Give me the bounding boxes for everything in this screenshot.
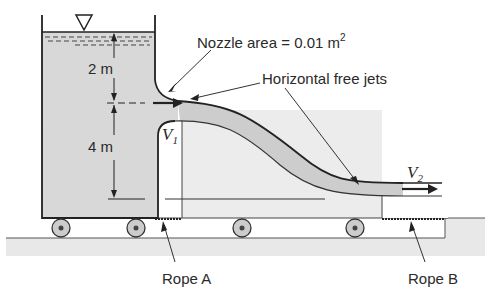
- v2-label: V2: [407, 163, 423, 184]
- wheels: [52, 219, 364, 237]
- ground: [6, 238, 460, 256]
- height-upper-label: 2 m: [88, 60, 113, 77]
- rope-b-label: Rope B: [408, 270, 458, 287]
- height-lower-label: 4 m: [88, 138, 113, 155]
- ground-step: [445, 218, 485, 256]
- v1-label: V1: [162, 125, 178, 146]
- nozzle-wall: [155, 15, 178, 101]
- nozzle-area-label: Nozzle area = 0.01 m2: [197, 32, 346, 51]
- tank-jet-diagram: 2 m 4 m Nozzle area = 0.01 m2 Horizontal…: [0, 0, 493, 298]
- v2-arrow-icon: [428, 184, 438, 194]
- free-surface-icon: [76, 15, 92, 30]
- rope-a-label: Rope A: [162, 270, 211, 287]
- horizontal-free-jets-label: Horizontal free jets: [262, 70, 387, 87]
